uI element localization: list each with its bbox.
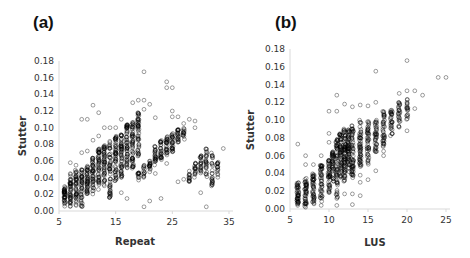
y-tick-label: 0.02 bbox=[34, 189, 54, 199]
y-tick-label: 0.18 bbox=[265, 44, 285, 54]
x-tick-label: 15 bbox=[110, 217, 121, 227]
y-axis-title-a: Stutter bbox=[17, 116, 28, 156]
chart-panel-a: (a) 0.000.020.040.060.080.100.120.140.16… bbox=[0, 0, 235, 258]
y-tick-label: 0.04 bbox=[265, 168, 285, 178]
chart-panel-b: (b) 0.000.020.040.060.080.100.120.140.16… bbox=[232, 0, 470, 258]
y-axis-title-b: Stutter bbox=[245, 110, 256, 150]
data-points-b bbox=[295, 59, 448, 209]
y-tick-label: 0.14 bbox=[265, 80, 285, 90]
y-tick-label: 0.10 bbox=[34, 123, 54, 133]
scatter-plot-a: 0.000.020.040.060.080.100.120.140.160.18… bbox=[0, 0, 235, 258]
x-axis-title-b: LUS bbox=[364, 237, 385, 248]
x-tick-label: 5 bbox=[56, 217, 62, 227]
y-tick-label: 0.18 bbox=[34, 56, 54, 66]
y-tick-label: 0.08 bbox=[265, 133, 285, 143]
x-tick-label: 25 bbox=[167, 217, 178, 227]
y-tick-label: 0.08 bbox=[34, 139, 54, 149]
y-tick-label: 0.10 bbox=[265, 115, 285, 125]
x-axis-title-a: Repeat bbox=[115, 236, 155, 247]
data-points-a bbox=[62, 70, 225, 209]
y-tick-label: 0.06 bbox=[265, 151, 285, 161]
y-tick-label: 0.12 bbox=[265, 97, 285, 107]
y-tick-label: 0.16 bbox=[265, 62, 285, 72]
y-tick-label: 0.04 bbox=[34, 173, 54, 183]
y-tick-label: 0.12 bbox=[34, 106, 54, 116]
x-tick-label: 10 bbox=[323, 215, 335, 225]
scatter-plot-b: 0.000.020.040.060.080.100.120.140.160.18… bbox=[232, 0, 470, 258]
y-tick-label: 0.00 bbox=[265, 204, 285, 214]
y-tick-label: 0.06 bbox=[34, 156, 54, 166]
x-tick-label: 20 bbox=[401, 215, 413, 225]
y-tick-label: 0.14 bbox=[34, 89, 54, 99]
y-tick-label: 0.00 bbox=[34, 206, 54, 216]
x-tick-label: 25 bbox=[440, 215, 451, 225]
y-tick-label: 0.02 bbox=[265, 186, 285, 196]
x-tick-label: 15 bbox=[362, 215, 373, 225]
x-tick-label: 5 bbox=[287, 215, 293, 225]
y-tick-label: 0.16 bbox=[34, 73, 54, 83]
